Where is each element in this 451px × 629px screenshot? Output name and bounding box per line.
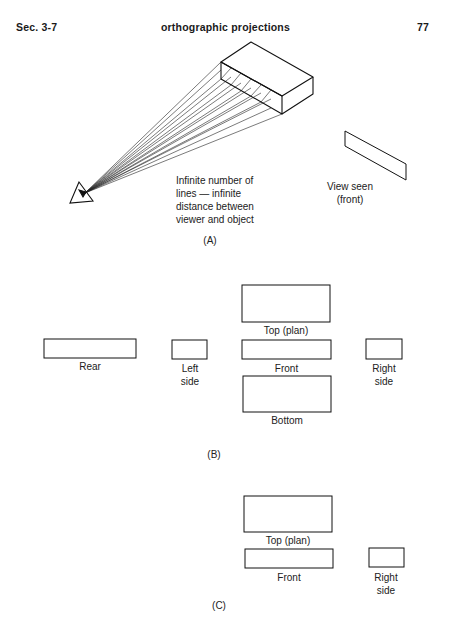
c-front-label: Front: [245, 571, 333, 584]
figure-a-drawing: [0, 0, 451, 629]
label-line: side: [364, 375, 404, 388]
figure-b-views: [44, 285, 402, 412]
front-face-hatch: [221, 68, 271, 102]
view-seen-label: View seen (front): [320, 180, 380, 206]
label-line: side: [170, 375, 210, 388]
b-bottom-label: Bottom: [243, 414, 331, 427]
b-top-label: Top (plan): [242, 324, 330, 337]
label-line: Left: [170, 362, 210, 375]
view-seen-shape: [345, 131, 406, 180]
label-line: Right: [364, 362, 404, 375]
label-line: side: [366, 584, 406, 597]
b-front-label: Front: [242, 362, 331, 375]
c-front-view: [245, 549, 333, 568]
b-left-side-view: [172, 340, 207, 359]
annotation-line: lines — infinite: [176, 187, 254, 200]
view-seen-line: View seen: [320, 180, 380, 193]
label-line: Right: [366, 571, 406, 584]
c-right-side-label: Right side: [366, 571, 406, 597]
b-right-side-label: Right side: [364, 362, 404, 388]
c-top-view: [244, 496, 332, 532]
eye-icon: [70, 182, 93, 203]
annotation-line: Infinite number of: [176, 174, 254, 187]
projection-annotation: Infinite number of lines — infinite dist…: [176, 174, 254, 226]
b-bottom-view: [243, 376, 331, 412]
b-left-side-label: Left side: [170, 362, 210, 388]
caption-c: (C): [204, 599, 234, 612]
b-right-side-view: [366, 339, 402, 359]
c-top-label: Top (plan): [244, 534, 332, 547]
caption-a: (A): [195, 234, 225, 247]
b-rear-view: [44, 339, 136, 358]
c-right-side-view: [369, 548, 404, 567]
view-seen-line: (front): [320, 193, 380, 206]
annotation-line: viewer and object: [176, 213, 254, 226]
isometric-box: [221, 42, 313, 114]
b-rear-label: Rear: [44, 360, 136, 373]
caption-b: (B): [199, 448, 229, 461]
figure-c-views: [244, 496, 404, 568]
b-top-view: [242, 285, 330, 322]
b-front-view: [242, 340, 331, 359]
annotation-line: distance between: [176, 200, 254, 213]
